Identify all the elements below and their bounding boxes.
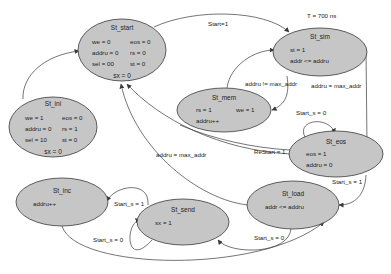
edge-label-eos-to-load: Start_s = 1: [332, 178, 363, 185]
state-name: St_mem: [212, 94, 236, 102]
state-assignment: sx = 0: [44, 148, 62, 155]
state-name: St_eos: [326, 138, 347, 146]
state-name: St_ini: [45, 100, 61, 108]
state-assignment: eos = 0: [62, 114, 83, 121]
state-assignment: addru = 0: [92, 49, 119, 56]
state-assignment: eos = 0: [130, 38, 151, 45]
state-assignment: st = 1: [290, 46, 306, 53]
state-assignment: sel = 00: [92, 60, 114, 67]
edge-label-send-loop: Start_s = 0: [93, 236, 124, 243]
edge-label-load-to-send: Start_s = 0: [254, 234, 285, 241]
state-st-send: St_send sx = 1: [137, 199, 229, 245]
state-assignment: addr <= addru: [265, 203, 304, 210]
state-assignment: eos = 1: [306, 150, 327, 157]
state-assignment: we = 0: [91, 38, 111, 45]
state-assignment: addru++: [33, 200, 56, 207]
state-name: St_sim: [310, 33, 330, 41]
edge-label-restart: ReStart = 1: [254, 148, 286, 155]
state-assignment: we = 1: [235, 106, 255, 113]
state-assignment: addru++: [196, 117, 219, 124]
edge-label-load-to-start: addru = max_addr: [156, 151, 206, 158]
state-assignment: addru = 0: [25, 125, 52, 132]
edge-label-send-to-inc: Start_s = 1: [114, 200, 145, 207]
state-machine-diagram: St_start we = 0 eos = 0 addru = 0 rs = 0…: [0, 0, 391, 274]
state-assignment: rs = 0: [130, 49, 146, 56]
edge-sim-to-eos: [366, 50, 367, 146]
edge-label-not-max: addru != max_addr: [245, 80, 297, 87]
state-st-load: St_load addr <= addru: [247, 181, 339, 229]
state-st-mem: St_mem rs = 1 we = 1 addru++: [177, 88, 271, 132]
state-name: St_inc: [53, 187, 72, 195]
state-assignment: st = 0: [130, 60, 146, 67]
edge-label-max: addru = max_addr: [311, 82, 361, 89]
state-st-start: St_start we = 0 eos = 0 addru = 0 rs = 0…: [78, 19, 166, 81]
state-name: St_load: [282, 190, 304, 198]
state-st-sim: St_sim st = 1 addr <= addru: [273, 28, 367, 76]
timing-annotation: T = 700 ns: [307, 12, 336, 19]
state-name: St_send: [171, 206, 195, 214]
state-assignment: we = 1: [24, 114, 44, 121]
edge-ini-to-start: [23, 51, 79, 99]
state-assignment: sel = 10: [25, 136, 47, 143]
state-st-eos: St_eos eos = 1 addru = 0: [289, 131, 383, 177]
state-assignment: st = 0: [62, 136, 78, 143]
state-assignment: addr <= addru: [290, 57, 329, 64]
edge-label-eos-loop: Start_s = 0: [296, 109, 327, 116]
edge-label-start: Start=1: [208, 20, 229, 27]
state-assignment: rs = 1: [62, 125, 78, 132]
state-assignment: sx = 0: [113, 72, 131, 79]
state-st-inc: St_inc addru++: [16, 178, 108, 226]
state-name: St_start: [111, 24, 134, 32]
state-assignment: rs = 1: [196, 106, 212, 113]
state-assignment: addru = 0: [306, 161, 333, 168]
state-assignment: sx = 1: [155, 219, 172, 226]
state-st-ini: St_ini we = 1 eos = 0 addru = 0 rs = 1 s…: [9, 97, 97, 157]
